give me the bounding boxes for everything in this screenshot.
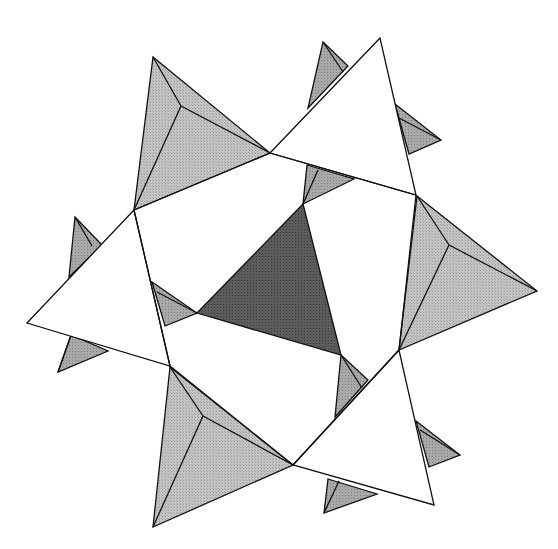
white-triangle-bottom-right (293, 350, 434, 505)
central-dark-face (197, 204, 341, 355)
diagram-canvas (0, 0, 558, 549)
central-triangle (197, 204, 341, 355)
tetra-bottom-left (153, 367, 293, 527)
tetra-top-left (134, 57, 270, 210)
white-triangle-left (27, 210, 170, 366)
tetrahedra-diagram (0, 0, 558, 549)
tetra-right (399, 196, 537, 350)
